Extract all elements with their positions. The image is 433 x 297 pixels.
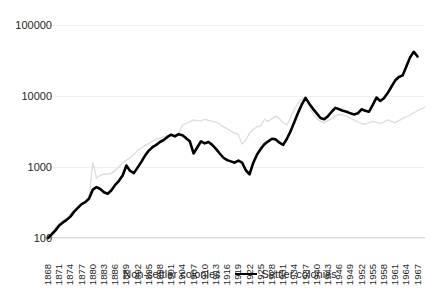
y-tick-100000: 100000 — [15, 20, 52, 31]
gridline-100 — [48, 238, 425, 239]
series-lines — [48, 25, 425, 238]
y-tick-1000: 1000 — [28, 162, 52, 173]
plot-area — [48, 25, 425, 238]
log-line-chart: 100100010000100000 186818711874187718801… — [0, 0, 433, 297]
legend-item-non-settler-colonies: Non-settler colonies — [96, 268, 220, 280]
series-line-non-settler-colonies — [48, 98, 425, 238]
series-line-settler-colonies — [48, 52, 418, 238]
legend-line-icon-non-settler — [96, 274, 118, 275]
legend-label-non-settler: Non-settler colonies — [123, 268, 220, 280]
y-tick-10000: 10000 — [21, 91, 52, 102]
legend-label-settler: Settler colonies — [262, 268, 337, 280]
legend-item-settler-colonies: Settler colonies — [235, 268, 337, 280]
legend-line-icon-settler — [235, 273, 257, 275]
chart-legend: Non-settler colonies Settler colonies — [0, 268, 433, 280]
